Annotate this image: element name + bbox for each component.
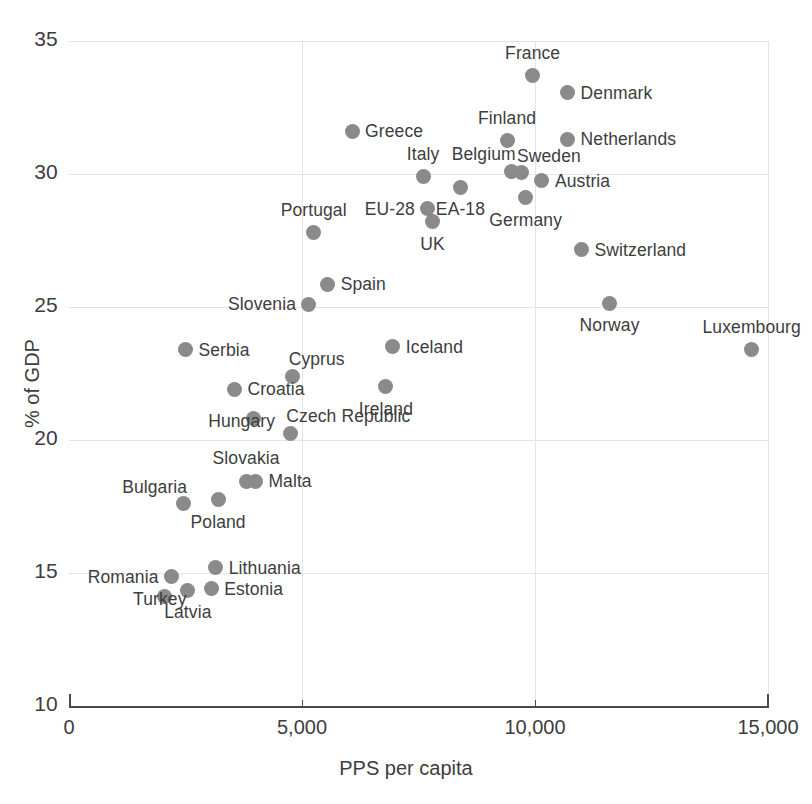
data-point-label: Malta xyxy=(268,471,311,492)
data-point[interactable] xyxy=(453,180,468,195)
data-point[interactable] xyxy=(744,342,759,357)
x-axis-right-cap xyxy=(767,694,769,707)
data-point[interactable] xyxy=(602,296,617,311)
data-point-label: Hungary xyxy=(208,410,275,431)
data-point[interactable] xyxy=(227,382,242,397)
data-point[interactable] xyxy=(178,342,193,357)
gridline-horizontal xyxy=(69,440,768,441)
data-point-label: Belgium xyxy=(452,144,516,165)
data-point-label: Cyprus xyxy=(289,349,345,370)
plot-area: FranceDenmarkGreeceFinlandNetherlandsBel… xyxy=(69,41,768,706)
data-point[interactable] xyxy=(385,339,400,354)
gridline-horizontal xyxy=(69,41,768,42)
data-point[interactable] xyxy=(534,173,549,188)
data-point-label: Austria xyxy=(555,170,610,191)
data-point-label: Denmark xyxy=(581,82,653,103)
data-point-label: Luxembourg xyxy=(703,317,801,338)
x-tick-label: 10,000 xyxy=(504,716,565,739)
data-point-label: Germany xyxy=(489,210,562,231)
data-point[interactable] xyxy=(204,581,219,596)
data-point-label: Finland xyxy=(478,108,536,129)
data-point[interactable] xyxy=(320,277,335,292)
data-point-label: Slovakia xyxy=(213,448,280,469)
x-tick-label: 0 xyxy=(63,716,74,739)
data-point-label: Greece xyxy=(365,121,423,142)
data-point-label: France xyxy=(505,43,560,64)
data-point[interactable] xyxy=(248,474,263,489)
data-point-label: Czech Republic xyxy=(286,406,410,427)
data-point[interactable] xyxy=(301,297,316,312)
data-point-label: Croatia xyxy=(247,379,304,400)
gridline-vertical xyxy=(535,41,536,706)
data-point[interactable] xyxy=(164,569,179,584)
data-point-label: Switzerland xyxy=(595,239,687,260)
data-point-label: EU-28 xyxy=(365,198,415,219)
x-axis-line xyxy=(69,706,769,708)
x-tick-mark xyxy=(302,700,303,708)
data-point[interactable] xyxy=(416,169,431,184)
data-point-label: Romania xyxy=(88,566,159,587)
data-point[interactable] xyxy=(574,242,589,257)
y-tick-label: 10 xyxy=(12,692,58,716)
data-point-label: Norway xyxy=(580,315,640,336)
x-tick-mark xyxy=(535,700,536,708)
data-point-label: Sweden xyxy=(517,145,581,166)
data-point-label: UK xyxy=(420,234,445,255)
y-tick-label: 15 xyxy=(12,559,58,583)
data-point[interactable] xyxy=(306,225,321,240)
y-axis-title: % of GDP xyxy=(21,324,44,444)
x-axis-left-cap xyxy=(69,694,71,707)
data-point-label: Bulgaria xyxy=(122,476,187,497)
data-point-label: EA-18 xyxy=(436,199,485,220)
data-point-label: Serbia xyxy=(199,339,250,360)
y-tick-label: 25 xyxy=(12,293,58,317)
data-point-label: Slovenia xyxy=(228,294,296,315)
data-point-label: Turkey xyxy=(133,588,186,609)
y-tick-label: 30 xyxy=(12,160,58,184)
data-point[interactable] xyxy=(514,165,529,180)
scatter-chart-figure: FranceDenmarkGreeceFinlandNetherlandsBel… xyxy=(0,0,812,804)
x-axis-title: PPS per capita xyxy=(0,757,812,780)
data-point-label: Spain xyxy=(341,274,386,295)
data-point[interactable] xyxy=(525,68,540,83)
data-point-label: Iceland xyxy=(406,336,463,357)
data-point[interactable] xyxy=(378,379,393,394)
data-point[interactable] xyxy=(560,85,575,100)
data-point[interactable] xyxy=(283,426,298,441)
data-point[interactable] xyxy=(425,214,440,229)
data-point-label: Netherlands xyxy=(581,129,676,150)
data-point[interactable] xyxy=(176,496,191,511)
data-point[interactable] xyxy=(345,124,360,139)
data-point-label: Italy xyxy=(407,144,440,165)
data-point[interactable] xyxy=(211,492,226,507)
data-point-label: Poland xyxy=(191,512,246,533)
data-point-label: Estonia xyxy=(224,578,283,599)
gridline-vertical xyxy=(768,41,769,706)
gridline-horizontal xyxy=(69,307,768,308)
gridline-vertical xyxy=(302,41,303,706)
data-point[interactable] xyxy=(518,190,533,205)
data-point-label: Portugal xyxy=(281,200,347,221)
y-tick-label: 35 xyxy=(12,27,58,51)
x-tick-label: 15,000 xyxy=(737,716,798,739)
x-tick-label: 5,000 xyxy=(277,716,327,739)
data-point-label: Lithuania xyxy=(229,557,301,578)
